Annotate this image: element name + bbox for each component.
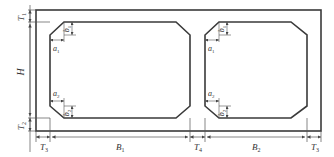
label-cell2-a2: a2: [208, 89, 215, 99]
label-t3-right: T3: [311, 142, 319, 153]
culvert-diagram: T1 H T2 T3 B1 T4 B2 T3 a1 b1 a2 b2 a1 b1…: [0, 0, 334, 157]
label-t1-top: T1: [16, 13, 27, 21]
label-t4: T4: [194, 142, 202, 153]
svg-text:H: H: [15, 68, 26, 77]
label-cell2-b1: b1: [217, 25, 227, 32]
svg-text:T1: T1: [16, 13, 27, 21]
label-b2: B2: [252, 142, 261, 153]
bottom-dimension: [36, 118, 321, 142]
label-h: H: [15, 68, 26, 77]
cell-2-haunch-dims: [205, 22, 231, 118]
cell-2-outline: [205, 22, 307, 118]
cell-1-outline: [50, 22, 190, 118]
svg-text:b1: b1: [217, 25, 227, 32]
svg-text:b2: b2: [62, 109, 72, 116]
label-cell2-b2: b2: [217, 109, 227, 116]
outer-frame: [36, 10, 321, 131]
label-b1: B1: [116, 142, 125, 153]
left-dimension: [28, 5, 50, 152]
label-cell1-b2: b2: [62, 109, 72, 116]
label-cell1-a1: a1: [53, 44, 60, 54]
label-cell1-a2: a2: [53, 89, 60, 99]
svg-text:T2: T2: [16, 122, 27, 130]
svg-text:b2: b2: [217, 109, 227, 116]
label-cell2-a1: a1: [208, 44, 215, 54]
label-t2: T2: [16, 122, 27, 130]
label-cell1-b1: b1: [62, 25, 72, 32]
cell-1-haunch-dims: [50, 22, 76, 118]
svg-text:b1: b1: [62, 25, 72, 32]
label-t3-left: T3: [40, 142, 48, 153]
